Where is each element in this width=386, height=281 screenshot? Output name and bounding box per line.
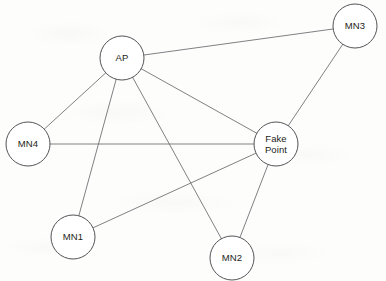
graph-node-ap[interactable]: AP bbox=[100, 36, 144, 80]
node-label-mn3: MN3 bbox=[345, 20, 365, 31]
graph-node-mn1[interactable]: MN1 bbox=[51, 215, 95, 259]
nodes-layer: APMN3FakePointMN4MN1MN2 bbox=[6, 4, 377, 280]
graph-svg: APMN3FakePointMN4MN1MN2 bbox=[0, 0, 386, 281]
graph-edge-ap-mn1 bbox=[79, 79, 116, 216]
graph-edge-ap-mn4 bbox=[44, 73, 106, 129]
graph-node-mn2[interactable]: MN2 bbox=[210, 236, 254, 280]
graph-edge-mn3-fakepoint bbox=[288, 44, 343, 125]
graph-node-mn4[interactable]: MN4 bbox=[6, 122, 50, 166]
node-label-fakepoint: FakePoint bbox=[265, 132, 287, 154]
graph-edge-ap-mn2 bbox=[133, 77, 222, 238]
graph-node-fakepoint[interactable]: FakePoint bbox=[254, 122, 298, 166]
graph-edge-mn1-fakepoint bbox=[93, 153, 256, 228]
node-label-ap: AP bbox=[116, 52, 129, 63]
network-diagram-canvas: APMN3FakePointMN4MN1MN2 bbox=[0, 0, 386, 281]
node-label-mn1: MN1 bbox=[63, 231, 83, 242]
graph-node-mn3[interactable]: MN3 bbox=[333, 4, 377, 48]
graph-edge-ap-mn3 bbox=[144, 29, 333, 55]
node-label-mn4: MN4 bbox=[18, 138, 38, 149]
node-label-mn2: MN2 bbox=[222, 252, 242, 263]
edges-layer bbox=[44, 29, 343, 239]
graph-edge-mn2-fakepoint bbox=[240, 165, 268, 238]
